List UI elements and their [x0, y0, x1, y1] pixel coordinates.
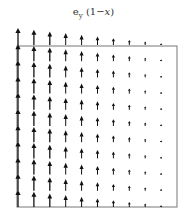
arrow-field: [15, 28, 162, 207]
vector-field-plot: [0, 0, 187, 220]
